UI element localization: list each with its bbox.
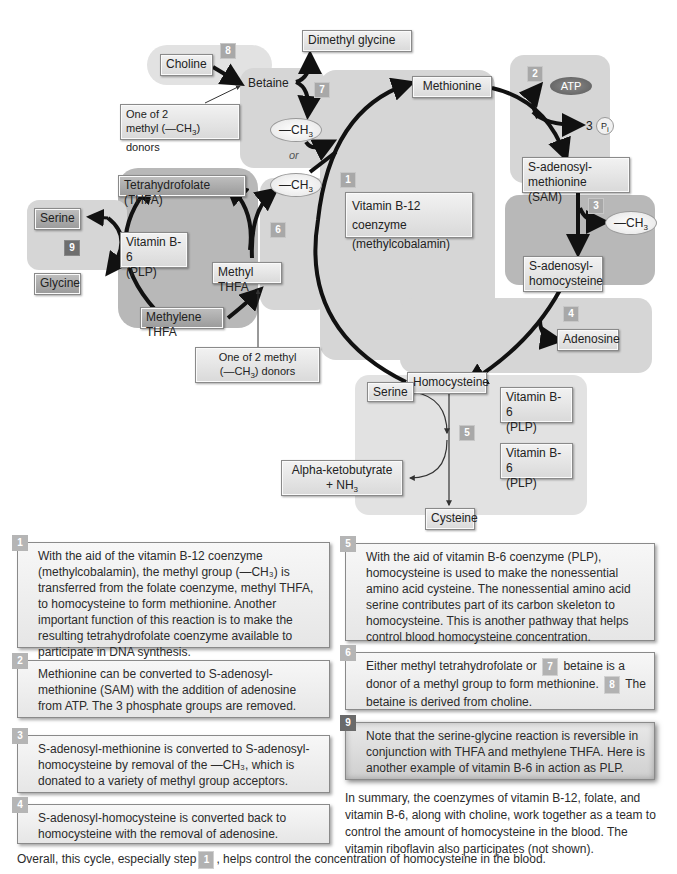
footer-text-a: Overall, this cycle, especially step <box>17 852 196 866</box>
note-step-5: 5 With the aid of vitamin B-6 coenzyme (… <box>345 543 655 641</box>
node-vitamin-b12-coenzyme: Vitamin B-12 coenzyme (methylcobalamin) <box>345 192 473 238</box>
methyl-donor-note-bottom-line2: (—CH3) donors <box>201 364 314 383</box>
three-label: 3 <box>586 119 593 133</box>
node-serine-left: Serine <box>34 208 81 230</box>
methyl-donor-note-top-line2: methyl (—CH3) donors <box>126 121 234 154</box>
node-choline: Choline <box>160 54 213 76</box>
note-badge-6: 6 <box>340 645 356 661</box>
footer-line: Overall, this cycle, especially step1, h… <box>17 851 667 869</box>
atp-oval: ATP <box>550 77 592 95</box>
step-badge-7: 7 <box>314 82 330 98</box>
methyl-group-oval-sam: —CH3 <box>605 211 657 235</box>
note-badge-1: 1 <box>12 535 28 551</box>
b12-line1: Vitamin B-12 coenzyme <box>352 197 466 235</box>
methyl-group-oval-bottom: —CH3 <box>270 173 322 197</box>
node-homocysteine: Homocysteine <box>407 372 487 394</box>
footer-inline-badge-1: 1 <box>198 851 214 869</box>
step-badge-2: 2 <box>527 66 543 82</box>
note-badge-9: 9 <box>340 715 356 731</box>
methyl-donor-note-top: One of 2 methyl (—CH3) donors <box>120 104 240 140</box>
note-step-9: 9 Note that the serine-glycine reaction … <box>345 722 655 780</box>
summary-paragraph: In summary, the coenzymes of vitamin B-1… <box>345 790 663 858</box>
node-sam-line1: S-adenosyl- <box>528 160 624 175</box>
node-tetrahydrofolate: Tetrahydrofolate (THFA) <box>118 175 246 197</box>
note-4-text: S-adenosyl-homocysteine is converted bac… <box>38 811 286 841</box>
note-badge-4: 4 <box>12 797 28 813</box>
b6-right2-line2: (PLP) <box>506 476 567 491</box>
step-badge-4: 4 <box>563 306 579 322</box>
note-2-text: Methionine can be converted to S-adenosy… <box>38 667 296 713</box>
note-5-text: With the aid of vitamin B-6 coenzyme (PL… <box>366 550 631 644</box>
phosphate-circle: Pi <box>596 117 614 135</box>
node-sam-line2: methionine (SAM) <box>528 175 624 205</box>
methyl-donor-note-bottom-line1: One of 2 methyl <box>201 350 314 364</box>
note-badge-2: 2 <box>12 653 28 669</box>
alpha-line1: Alpha-ketobutyrate <box>287 463 397 478</box>
step-badge-5: 5 <box>459 425 475 441</box>
step-badge-8: 8 <box>220 43 236 59</box>
step-badge-9: 9 <box>64 240 80 256</box>
note-6-text-a: Either methyl tetrahydrofolate or <box>366 659 537 673</box>
node-methyl-thfa: Methyl THFA <box>212 262 282 284</box>
inline-badge-8: 8 <box>604 676 620 694</box>
note-step-6: 6 Either methyl tetrahydrofolate or 7 be… <box>345 652 655 710</box>
note-step-3: 3 S-adenosyl-methionine is converted to … <box>17 735 330 793</box>
node-sah-line2: homocysteine <box>529 274 597 289</box>
methyl-donor-note-top-line1: One of 2 <box>126 107 234 121</box>
note-3-text: S-adenosyl-methionine is converted to S-… <box>38 742 309 788</box>
node-alpha-ketobutyrate: Alpha-ketobutyrate + NH3 <box>281 460 403 496</box>
node-vitamin-b6-right-1: Vitamin B-6 (PLP) <box>500 387 573 423</box>
footer-text-b: , helps control the concentration of hom… <box>216 852 546 866</box>
inline-badge-7: 7 <box>542 658 558 676</box>
b12-line2: (methylcobalamin) <box>352 235 466 254</box>
node-vitamin-b6-left: Vitamin B-6 (PLP) <box>120 232 188 268</box>
b6-right1-line1: Vitamin B-6 <box>506 390 567 420</box>
node-methionine: Methionine <box>412 76 492 98</box>
alpha-line2: + NH3 <box>287 478 397 497</box>
or-label: or <box>289 149 299 161</box>
step-badge-1: 1 <box>340 172 356 188</box>
methyl-donor-note-bottom: One of 2 methyl (—CH3) donors <box>195 347 320 383</box>
note-1-text: With the aid of the vitamin B-12 coenzym… <box>38 549 313 659</box>
node-glycine: Glycine <box>34 273 81 295</box>
node-betaine: Betaine <box>248 76 289 90</box>
node-sam: S-adenosyl- methionine (SAM) <box>522 157 630 193</box>
b6-right1-line2: (PLP) <box>506 420 567 435</box>
step-badge-3: 3 <box>588 198 604 214</box>
node-cysteine: Cysteine <box>425 508 475 530</box>
node-methylene-thfa: Methylene THFA <box>140 307 224 329</box>
note-step-4: 4 S-adenosyl-homocysteine is converted b… <box>17 804 330 844</box>
note-9-text: Note that the serine-glycine reaction is… <box>366 729 645 775</box>
node-dimethyl-glycine: Dimethyl glycine <box>302 30 412 52</box>
b6-left-line2: (PLP) <box>126 265 182 280</box>
b6-right2-line1: Vitamin B-6 <box>506 446 567 476</box>
note-badge-3: 3 <box>12 728 28 744</box>
node-sah: S-adenosyl- homocysteine <box>523 256 603 292</box>
note-step-2: 2 Methionine can be converted to S-adeno… <box>17 660 330 718</box>
note-badge-5: 5 <box>340 536 356 552</box>
step-badge-6: 6 <box>270 222 286 238</box>
node-sah-line1: S-adenosyl- <box>529 259 597 274</box>
methyl-group-oval-top: —CH3 <box>270 118 322 142</box>
b6-left-line1: Vitamin B-6 <box>126 235 182 265</box>
note-step-1: 1 With the aid of the vitamin B-12 coenz… <box>17 542 330 648</box>
node-vitamin-b6-right-2: Vitamin B-6 (PLP) <box>500 443 573 479</box>
node-serine-bottom: Serine <box>367 382 414 402</box>
node-adenosine: Adenosine <box>557 329 619 351</box>
